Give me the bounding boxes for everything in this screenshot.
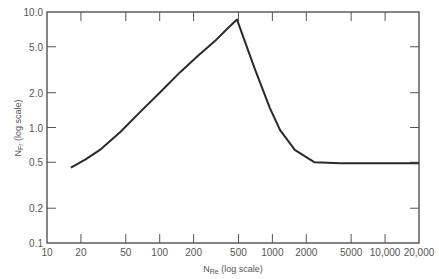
x-tick-label: 500: [230, 247, 247, 258]
data-line: [71, 20, 419, 168]
plot-frame: [47, 12, 419, 243]
x-tick-label: 100: [151, 247, 168, 258]
y-tick-label: 0.1: [29, 238, 43, 249]
x-axis-label: NRe (log scale): [203, 264, 262, 275]
y-tick-label: 0.2: [29, 203, 43, 214]
x-tick-label: 10: [41, 247, 53, 258]
y-tick-label: 2.0: [29, 88, 43, 99]
y-tick-label: 0.5: [29, 157, 43, 168]
y-tick-label: 5.0: [29, 42, 43, 53]
y-tick-label: 10.0: [24, 7, 44, 18]
x-tick-label: 200: [185, 247, 202, 258]
x-tick-label: 50: [120, 247, 132, 258]
x-tick-label: 20: [75, 247, 87, 258]
chart: 10205010020050010002000500010,00020,000 …: [0, 0, 439, 279]
data-series: [71, 20, 419, 168]
y-tick-label: 1.0: [29, 123, 43, 134]
x-tick-label: 10,000: [370, 247, 401, 258]
x-axis-ticks: 10205010020050010002000500010,00020,000: [41, 12, 434, 258]
x-tick-label: 20,000: [404, 247, 435, 258]
x-tick-label: 5000: [340, 247, 363, 258]
x-tick-label: 2000: [295, 247, 318, 258]
x-tick-label: 1000: [261, 247, 284, 258]
plot-border: [47, 12, 419, 243]
y-axis-label: NFr (log scale): [13, 99, 24, 156]
y-axis-ticks: 0.10.20.51.02.05.010.0: [24, 7, 419, 249]
